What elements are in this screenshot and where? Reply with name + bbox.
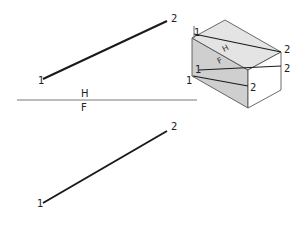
front-view-line-1-2 [43, 131, 167, 203]
top-view-line-1-2 [43, 21, 167, 79]
top-view: 1 2 [38, 13, 177, 86]
orthographic-projection-diagram: 1 2 H F 1 2 H F 1 2 1 2 1 2 [0, 0, 307, 233]
box-label-2-mid: 2 [284, 63, 290, 74]
top-view-label-2: 2 [171, 13, 177, 24]
front-view: 1 2 [37, 121, 177, 209]
pictorial-box: H F 1 2 1 2 1 2 [186, 20, 290, 108]
box-label-1-low: 1 [186, 75, 192, 86]
box-label-2-top: 2 [284, 44, 290, 55]
fold-line-group: H F [17, 88, 197, 113]
front-view-label-2: 2 [171, 121, 177, 132]
box-label-1-mid: 1 [195, 64, 201, 75]
fold-label-f: F [81, 102, 87, 113]
fold-label-h: H [81, 88, 89, 99]
top-view-label-1: 1 [38, 75, 44, 86]
box-label-1-top: 1 [194, 27, 200, 38]
box-label-2-low: 2 [250, 82, 256, 93]
front-view-label-1: 1 [37, 198, 43, 209]
